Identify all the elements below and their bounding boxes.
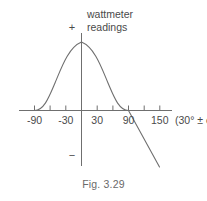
x-tick-label-90: 90 xyxy=(123,114,135,126)
x-tick-label-150: 150 xyxy=(151,114,169,126)
x-axis-caption: (30° ± φ) xyxy=(175,114,207,126)
positive-sign-label: + xyxy=(69,21,75,33)
negative-sign-label: − xyxy=(69,149,75,161)
x-tick-label--90: -90 xyxy=(27,114,42,126)
plot-title-line-1: wattmeter xyxy=(86,8,134,20)
figure-caption: Fig. 3.29 xyxy=(0,178,207,190)
plot-title-line-2: readings xyxy=(87,21,127,33)
x-tick-label--30: -30 xyxy=(58,114,73,126)
x-tick-label-30: 30 xyxy=(91,114,103,126)
figure-container: -90 -30 30 90 150 (30° ± φ) + − wattmete… xyxy=(0,0,207,201)
wattmeter-plot: -90 -30 30 90 150 (30° ± φ) + − wattmete… xyxy=(0,0,207,201)
